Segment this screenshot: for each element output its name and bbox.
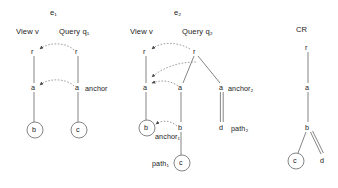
panel-cr-edges — [288, 52, 323, 169]
node-e2-query-root: r — [193, 48, 196, 55]
node-e2-view-b: b — [144, 124, 148, 131]
panel-cr-title: CR — [296, 26, 307, 34]
node-cr-b: b — [305, 124, 309, 131]
diagram-vector-layer — [0, 0, 338, 188]
panel-e1-mapping-arcs — [40, 44, 74, 86]
node-e1-query-c: c — [76, 126, 80, 133]
annotation-e2-path1: path₁ — [152, 160, 169, 167]
node-e2-view-root: r — [143, 48, 146, 55]
node-cr-c: c — [293, 157, 297, 164]
panel-e1-column-query-heading: Query q₁ — [59, 28, 89, 36]
panel-e2-column-query-heading: Query q₂ — [182, 28, 213, 36]
node-e1-view-b: b — [32, 126, 36, 133]
panel-e1-title: e₁ — [50, 9, 57, 17]
node-e2-query-a1: a — [178, 84, 182, 91]
annotation-e2-anchor1: anchor₁ — [155, 133, 180, 140]
node-cr-d: d — [320, 157, 324, 164]
panel-e2-mapping-arcs — [152, 43, 196, 126]
panel-e2-edges — [139, 56, 223, 171]
panel-e2-column-view-heading: View v — [130, 28, 153, 36]
node-e2-query-a2: a — [219, 84, 223, 91]
figure-canvas: e₁ View v Query q₁ r a b r a c anchor e₂… — [0, 0, 338, 188]
node-e2-query-d2: d — [219, 124, 223, 131]
annotation-e1-anchor: anchor — [85, 85, 108, 92]
annotation-e2-path2: path₂ — [231, 125, 248, 132]
node-e1-view-root: r — [31, 48, 34, 55]
node-cr-a: a — [305, 84, 309, 91]
node-e1-query-root: r — [75, 48, 78, 55]
panel-e1-column-view-heading: View v — [16, 28, 39, 36]
node-e1-view-a: a — [31, 84, 35, 91]
node-cr-root: r — [305, 44, 308, 51]
annotation-e2-anchor2: anchor₂ — [228, 85, 253, 92]
node-e2-query-c1: c — [179, 159, 183, 166]
node-e2-view-a: a — [143, 84, 147, 91]
node-e1-query-a: a — [75, 84, 79, 91]
node-e2-query-b1: b — [178, 124, 182, 131]
panel-e2-title: e₂ — [174, 9, 181, 17]
